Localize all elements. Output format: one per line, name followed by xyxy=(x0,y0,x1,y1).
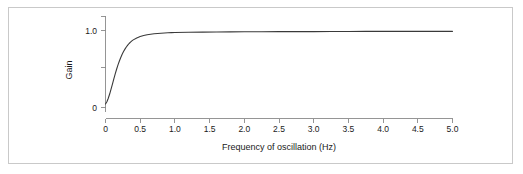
x-tick-label-3: 1.5 xyxy=(204,124,216,134)
y-tick-label-1: 1.0 xyxy=(85,26,97,36)
x-tick-label-6: 3.0 xyxy=(308,124,320,134)
x-tick-label-2: 1.0 xyxy=(169,124,181,134)
gain-frequency-chart: 0 1.0 Gain 0 0.5 1.0 1.5 2.0 2.5 3.0 3.5 xyxy=(0,0,523,174)
x-axis-group: 0 0.5 1.0 1.5 2.0 2.5 3.0 3.5 4.0 4.5 5.… xyxy=(103,119,459,153)
x-tick-label-7: 3.5 xyxy=(342,124,354,134)
x-axis-title: Frequency of oscillation (Hz) xyxy=(222,142,336,152)
x-tick-label-1: 0.5 xyxy=(134,124,146,134)
figure-root: 0 1.0 Gain 0 0.5 1.0 1.5 2.0 2.5 3.0 3.5 xyxy=(0,0,523,174)
y-tick-label-0: 0 xyxy=(92,103,97,113)
gain-response-curve xyxy=(106,31,453,104)
x-tick-label-5: 2.5 xyxy=(273,124,285,134)
x-tick-label-9: 4.5 xyxy=(412,124,424,134)
x-tick-label-10: 5.0 xyxy=(447,124,459,134)
x-tick-label-8: 4.0 xyxy=(377,124,389,134)
x-tick-label-4: 2.0 xyxy=(238,124,250,134)
y-axis-title: Gain xyxy=(64,60,74,79)
x-tick-label-0: 0 xyxy=(103,124,108,134)
y-axis-group: 0 1.0 Gain xyxy=(64,16,106,113)
